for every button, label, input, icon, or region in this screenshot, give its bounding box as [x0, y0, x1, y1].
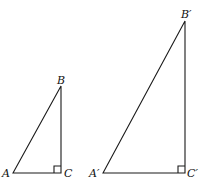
small-right-angle-marker	[54, 166, 61, 173]
label-C-prime: C′	[187, 168, 198, 179]
small-triangle	[13, 86, 61, 173]
label-C: C	[64, 168, 72, 179]
label-A-prime: A′	[89, 168, 99, 179]
label-B-prime: B′	[181, 9, 192, 20]
similar-triangles-figure: A B C A′ B′ C′	[0, 0, 208, 187]
large-right-angle-marker	[178, 166, 185, 173]
triangles-drawing	[0, 0, 208, 187]
label-B: B	[57, 75, 65, 86]
large-triangle	[103, 21, 185, 173]
label-A: A	[2, 168, 10, 179]
